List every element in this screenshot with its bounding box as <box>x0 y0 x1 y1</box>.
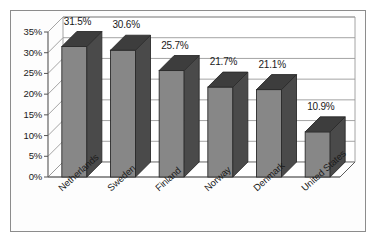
y-tick-label: 15% <box>8 109 42 120</box>
depth-connector-group <box>48 17 63 177</box>
bar-value-label: 21.1% <box>259 59 286 70</box>
bar-value-label: 25.7% <box>161 40 188 51</box>
bar-value-label: 21.7% <box>210 56 237 67</box>
y-tick-label: 30% <box>8 47 42 58</box>
chart-container: 0%5%10%15%20%25%30%35% 31.5%30.6%25.7%21… <box>0 0 377 251</box>
y-tick-label: 25% <box>8 67 42 78</box>
bar-value-label: 30.6% <box>113 19 140 30</box>
bar-norway <box>208 72 248 177</box>
y-tick-label: 35% <box>8 26 42 37</box>
bar-value-label: 10.9% <box>307 101 334 112</box>
bar-sweden <box>111 35 151 177</box>
bar-value-label: 31.5% <box>64 16 91 27</box>
y-tick-label: 5% <box>8 150 42 161</box>
bar-finland <box>159 56 199 177</box>
y-tick-label: 20% <box>8 88 42 99</box>
y-tick-label: 0% <box>8 171 42 182</box>
chart-plot-svg <box>0 0 377 251</box>
axis-tick-group <box>44 32 48 177</box>
y-tick-label: 10% <box>8 130 42 141</box>
